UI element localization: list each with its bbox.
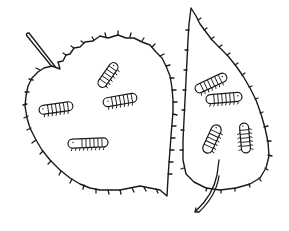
right-leaf (180, 8, 272, 212)
left-leaf-body (25, 35, 173, 196)
left-leaf (23, 31, 177, 196)
illustration (0, 0, 289, 231)
